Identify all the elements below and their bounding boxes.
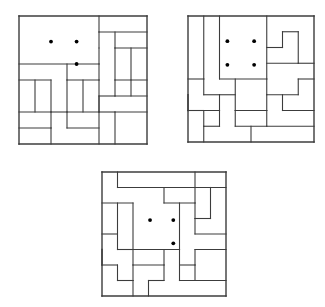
marker-dot [171, 241, 175, 245]
puzzle-grid-puzzle-3 [100, 170, 228, 298]
puzzle-grid-puzzle-2 [186, 14, 316, 144]
marker-dot [171, 218, 175, 222]
marker-dot [49, 40, 53, 44]
marker-dot [252, 63, 256, 67]
marker-dot [225, 39, 229, 43]
marker-dot [148, 218, 152, 222]
marker-dot [75, 40, 79, 44]
marker-dot [75, 62, 79, 66]
marker-dot [252, 39, 256, 43]
marker-dot [225, 63, 229, 67]
puzzle-board-puzzle-1 [17, 14, 149, 146]
puzzle-board-puzzle-3 [100, 170, 228, 298]
puzzle-grid-puzzle-1 [17, 14, 149, 146]
puzzle-board-puzzle-2 [186, 14, 316, 144]
